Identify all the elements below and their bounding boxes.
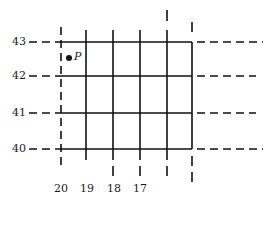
row-label-41: 41 bbox=[12, 107, 26, 118]
column-label-17: 17 bbox=[133, 183, 147, 194]
row-label-43: 43 bbox=[12, 36, 26, 47]
column-label-19: 19 bbox=[80, 183, 94, 194]
row-label-42: 42 bbox=[12, 70, 26, 81]
row-label-40: 40 bbox=[12, 143, 26, 154]
column-label-20: 20 bbox=[54, 183, 68, 194]
point-p-marker bbox=[66, 55, 72, 61]
column-label-18: 18 bbox=[107, 183, 121, 194]
point-p-label: P bbox=[74, 51, 81, 62]
